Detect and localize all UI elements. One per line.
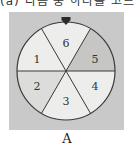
spinner-wheel: 6 5 4 3 2 1: [0, 0, 134, 151]
sector-label-1: 1: [34, 53, 41, 66]
sector-label-2: 2: [34, 80, 41, 93]
figure-caption: A: [0, 131, 134, 146]
sector-label-3: 3: [63, 95, 70, 108]
sector-label-5: 5: [92, 53, 99, 66]
sector-label-6: 6: [63, 37, 70, 50]
sector-label-4: 4: [92, 80, 99, 93]
